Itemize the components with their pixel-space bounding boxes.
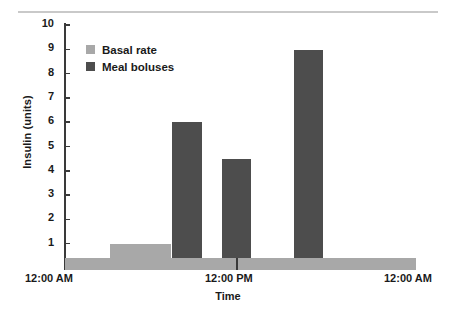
legend-item-basal-rate: Basal rate xyxy=(86,42,174,57)
x-tick-label-end: 12:00 AM xyxy=(384,272,432,284)
y-tick-label-5: 5 xyxy=(48,139,54,151)
y-tick-mark-5 xyxy=(64,146,70,148)
y-tick-label-2: 2 xyxy=(48,211,54,223)
basal-rate-band xyxy=(65,258,416,270)
legend-item-meal-boluses: Meal boluses xyxy=(86,59,174,74)
y-tick-mark-1 xyxy=(64,243,70,245)
basal-rate-raised-segment xyxy=(110,244,171,258)
y-tick-label-4: 4 xyxy=(48,163,54,175)
y-tick-mark-7 xyxy=(64,97,70,99)
y-tick-label-8: 8 xyxy=(48,66,54,78)
y-tick-mark-9 xyxy=(64,49,70,51)
x-tick-label-start: 12:00 AM xyxy=(25,272,73,284)
y-tick-label-3: 3 xyxy=(48,187,54,199)
legend-swatch-meal-boluses xyxy=(86,62,95,71)
legend-label-meal-boluses: Meal boluses xyxy=(102,61,174,73)
y-tick-mark-3 xyxy=(64,194,70,196)
y-tick-label-1: 1 xyxy=(48,236,54,248)
bolus-bar-1 xyxy=(172,122,202,258)
x-tick-mark-noon xyxy=(236,258,238,270)
x-tick-label-noon: 12:00 PM xyxy=(205,272,253,284)
y-tick-label-7: 7 xyxy=(48,90,54,102)
bolus-bar-2 xyxy=(222,159,251,258)
legend-label-basal-rate: Basal rate xyxy=(102,44,157,56)
y-tick-label-6: 6 xyxy=(48,114,54,126)
y-tick-label-10: 10 xyxy=(42,17,54,29)
legend-swatch-basal-rate xyxy=(86,45,95,54)
chart-legend: Basal rate Meal boluses xyxy=(86,42,174,76)
y-tick-label-9: 9 xyxy=(48,41,54,53)
top-divider-rule xyxy=(18,11,438,13)
y-tick-mark-8 xyxy=(64,73,70,75)
y-tick-mark-2 xyxy=(64,219,70,221)
y-tick-mark-4 xyxy=(64,170,70,172)
bolus-bar-3 xyxy=(294,50,323,258)
y-tick-mark-6 xyxy=(64,121,70,123)
insulin-delivery-chart: Insulin (units) 10 9 8 7 6 5 4 3 2 1 xyxy=(0,0,456,312)
y-tick-mark-10 xyxy=(64,24,70,26)
x-axis-title: Time xyxy=(0,290,456,302)
y-axis-title: Insulin (units) xyxy=(21,62,33,202)
